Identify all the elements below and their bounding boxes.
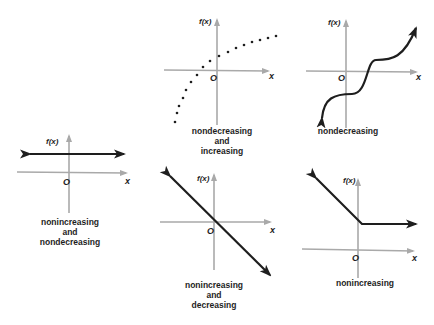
origin-label: O: [63, 177, 70, 187]
caption-constant: nonincreasing and nondecreasing: [40, 217, 100, 247]
origin-label: O: [210, 73, 217, 83]
graph-nondecreasing-cubic: [306, 21, 416, 128]
s-curve: [322, 28, 416, 118]
graph-constant: [17, 136, 126, 213]
origin-label: O: [338, 73, 345, 83]
x-axis-label: x: [270, 225, 275, 235]
y-axis-label: f(x): [328, 18, 340, 27]
x-axis-label: x: [269, 71, 274, 81]
caption-decreasing: nonincreasing and decreasing: [185, 280, 243, 310]
x-axis: [17, 172, 126, 173]
decreasing-line: [170, 176, 270, 275]
origin-label: O: [352, 253, 359, 263]
caption-nondecreasing: nondecreasing: [318, 126, 378, 136]
piecewise-line: [316, 178, 416, 224]
x-axis: [164, 70, 268, 71]
x-axis: [306, 71, 416, 72]
caption-increasing: nondecreasing and increasing: [192, 126, 252, 156]
graph-nonincreasing-piecewise: [302, 178, 416, 278]
y-axis-label: f(x): [343, 176, 355, 185]
graph-decreasing-line: [160, 175, 270, 275]
graph-increasing-dotted: [164, 20, 277, 125]
y-axis-label: f(x): [199, 17, 211, 26]
x-axis: [302, 249, 413, 251]
y-axis-label: f(x): [197, 174, 209, 183]
x-axis-label: x: [125, 176, 130, 186]
x-axis-label: x: [412, 253, 417, 263]
origin-label: O: [207, 226, 214, 236]
caption-nonincreasing: nonincreasing: [336, 278, 394, 288]
x-axis-label: x: [416, 72, 421, 82]
diagram-canvas: [0, 0, 434, 325]
dotted-curve: [174, 35, 278, 124]
y-axis-label: f(x): [46, 137, 58, 146]
